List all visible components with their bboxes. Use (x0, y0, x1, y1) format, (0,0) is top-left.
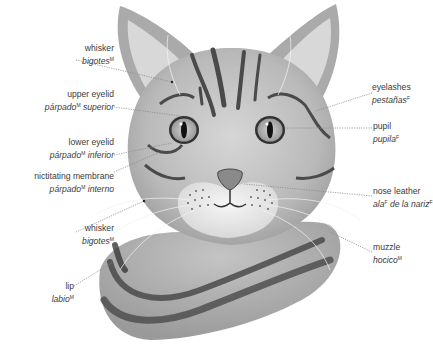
label-es: pupilaF (373, 132, 399, 145)
label-en: upper eyelid (10, 89, 114, 100)
label-es: bigotesM (30, 234, 114, 247)
label-whisker-bottom: whisker bigotesM (30, 223, 114, 246)
label-lip: lip labioM (30, 281, 74, 304)
label-en: whisker (30, 43, 114, 54)
label-en: nictitating membrane (0, 171, 114, 182)
label-en: eyelashes (372, 82, 411, 93)
label-en: nose leather (373, 186, 433, 197)
label-es: labioM (30, 292, 74, 305)
label-en: pupil (373, 121, 399, 132)
label-en: muzzle (373, 242, 402, 253)
label-eyelashes: eyelashes pestañasF (372, 82, 411, 105)
label-es: alaF de la narizF (373, 197, 433, 210)
label-upper-eyelid: upper eyelid párpadoM superior (10, 89, 114, 112)
label-en: lip (30, 281, 74, 292)
label-whisker-top: whisker bigotesM (30, 43, 114, 66)
label-es: párpadoM superior (10, 100, 114, 113)
label-es: pestañasF (372, 93, 411, 106)
label-es: hocicoM (373, 253, 402, 266)
label-pupil: pupil pupilaF (373, 121, 399, 144)
label-es: párpadoM interno (0, 182, 114, 195)
label-es: párpadoM inferior (10, 148, 114, 161)
label-en: lower eyelid (10, 137, 114, 148)
label-nose-leather: nose leather alaF de la narizF (373, 186, 433, 209)
right-eye (255, 116, 285, 144)
label-nictitating-membrane: nictitating membrane párpadoM interno (0, 171, 114, 194)
label-es: bigotesM (30, 54, 114, 67)
label-lower-eyelid: lower eyelid párpadoM inferior (10, 137, 114, 160)
label-en: whisker (30, 223, 114, 234)
left-eye (169, 116, 199, 144)
label-muzzle: muzzle hocicoM (373, 242, 402, 265)
